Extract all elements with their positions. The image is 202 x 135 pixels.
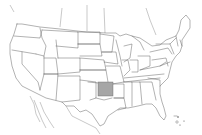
canada-borders bbox=[10, 5, 156, 35]
us-map bbox=[0, 0, 202, 135]
islands bbox=[174, 116, 185, 126]
state-borders bbox=[12, 28, 182, 110]
us-outline bbox=[10, 15, 190, 126]
highlighted-state-oklahoma bbox=[98, 82, 113, 96]
